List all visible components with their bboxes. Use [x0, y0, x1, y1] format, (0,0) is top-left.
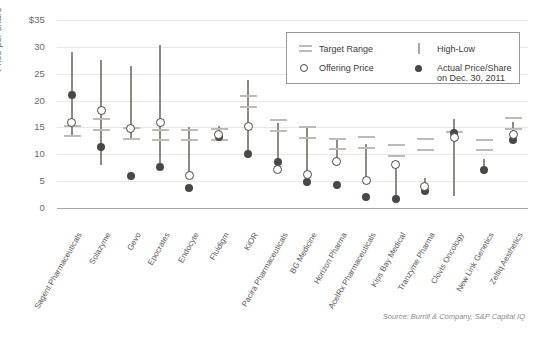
x-axis-label[interactable]: KiOR: [243, 231, 260, 252]
high-low-bar: [159, 45, 161, 167]
target-range-upper: [152, 129, 169, 131]
x-axis-label[interactable]: Epocrates: [146, 231, 172, 267]
legend-label-actual-price-date: on Dec. 30, 2011: [437, 73, 505, 83]
offering-price-marker: [244, 122, 253, 131]
y-axis-tick-label: 25: [5, 68, 45, 79]
offering-price-marker: [126, 124, 135, 133]
target-range-lower: [388, 155, 405, 157]
high-low-bar: [188, 127, 190, 173]
offering-price-marker: [332, 157, 341, 166]
target-range-lower: [93, 129, 110, 131]
target-range-lower: [240, 106, 257, 108]
actual-price-marker: [185, 184, 193, 192]
legend-label-high-low: High-Low: [437, 44, 475, 54]
actual-price-marker: [333, 181, 341, 189]
x-axis-label[interactable]: Sagent Pharmaceuticals: [32, 231, 83, 311]
target-range-icon: [299, 45, 312, 55]
target-range-upper: [505, 117, 522, 119]
chart-page: Price per share $35302520151050 Sagent P…: [0, 0, 535, 337]
target-range-upper: [388, 144, 405, 146]
gridline: [57, 101, 528, 102]
actual-price-marker: [392, 195, 400, 203]
y-axis-tick-label: 20: [5, 95, 45, 106]
target-range-upper: [329, 138, 346, 140]
target-range-lower: [299, 137, 316, 139]
x-axis-label[interactable]: Fluidigm: [208, 231, 231, 262]
legend: Target Range High-Low Offering Price Act…: [286, 32, 520, 84]
offering-price-marker: [362, 176, 371, 185]
target-range-upper: [358, 136, 375, 138]
offering-price-marker: [273, 165, 282, 174]
target-range-lower: [152, 139, 169, 141]
high-low-bar: [247, 80, 249, 157]
y-axis-tick-label: 5: [5, 175, 45, 186]
actual-price-marker: [127, 172, 135, 180]
target-range-lower: [64, 135, 81, 137]
x-axis-label[interactable]: Zeltiq Aesthetics: [488, 231, 525, 286]
target-range-upper: [417, 138, 434, 140]
offering-price-marker: [450, 133, 459, 142]
target-range-lower: [329, 148, 346, 150]
y-axis-tick-label: 30: [5, 41, 45, 52]
actual-price-marker: [480, 166, 488, 174]
actual-price-marker: [303, 178, 311, 186]
actual-price-marker: [97, 143, 105, 151]
offering-price-marker: [391, 160, 400, 169]
target-range-upper: [270, 119, 287, 121]
y-axis-tick-label: 15: [5, 121, 45, 132]
offering-price-marker: [303, 170, 312, 179]
high-low-icon: [418, 43, 420, 54]
target-range-upper: [181, 129, 198, 131]
target-range-upper: [240, 95, 257, 97]
target-range-lower: [476, 149, 493, 151]
offering-price-marker: [185, 171, 194, 180]
high-low-bar: [306, 126, 308, 176]
actual-price-marker: [68, 91, 76, 99]
legend-label-actual-price: Actual Price/Share: [437, 63, 512, 73]
target-range-lower: [417, 149, 434, 151]
target-range-upper: [93, 118, 110, 120]
actual-price-marker: [156, 163, 164, 171]
offering-price-marker: [97, 106, 106, 115]
gridline: [57, 181, 528, 182]
target-range-upper: [476, 139, 493, 141]
target-range-upper: [299, 126, 316, 128]
target-range-lower: [181, 139, 198, 141]
x-axis-line: [57, 208, 528, 209]
legend-label-target-range: Target Range: [319, 44, 373, 54]
actual-price-marker: [362, 193, 370, 201]
offering-price-marker: [420, 182, 429, 191]
target-range-lower: [358, 147, 375, 149]
y-axis-tick-label: 0: [5, 202, 45, 213]
source-note: Source: Burrill & Company, S&P Capital I…: [383, 312, 525, 321]
legend-label-offering-price: Offering Price: [319, 63, 374, 73]
y-axis-tick-label: 10: [5, 148, 45, 159]
offering-price-icon: [300, 64, 308, 72]
y-axis-tick-label: $35: [5, 14, 45, 25]
target-range-lower: [123, 138, 140, 140]
y-axis-title: Price per share: [0, 8, 3, 72]
x-axis-label[interactable]: Gevo: [125, 231, 142, 252]
actual-price-icon: [415, 65, 422, 72]
gridline: [57, 20, 528, 21]
x-axis-label[interactable]: Endocyte: [177, 231, 201, 264]
gridline: [57, 154, 528, 155]
x-axis-label[interactable]: BG Medicine: [288, 231, 319, 275]
actual-price-marker: [244, 150, 252, 158]
target-range-lower: [270, 130, 287, 132]
x-axis-label[interactable]: Solazyme: [88, 231, 113, 266]
offering-price-marker: [156, 118, 165, 127]
